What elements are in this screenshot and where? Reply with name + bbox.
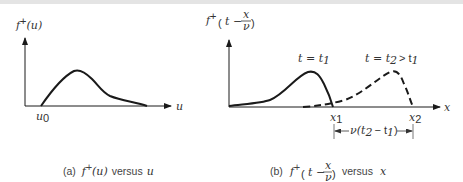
curve-t2-label: t = t2> t1 bbox=[365, 52, 419, 67]
svg-text:versus: versus bbox=[342, 165, 373, 177]
svg-text:(b): (b) bbox=[270, 165, 283, 177]
svg-text:(: ( bbox=[301, 168, 305, 180]
panel-a-x-axis-label: u bbox=[176, 100, 183, 113]
svg-text:t −: t − bbox=[225, 15, 242, 28]
svg-text:x: x bbox=[380, 165, 387, 178]
displacement-label: ν(t2− t1) bbox=[350, 124, 398, 139]
svg-text:ν: ν bbox=[325, 171, 332, 182]
svg-text:f+: f+ bbox=[289, 161, 300, 178]
panel-b-x-axis-label: x bbox=[444, 101, 451, 114]
svg-text:(: ( bbox=[218, 17, 222, 29]
wave-diagram: f+(u) u u0 (a)f+(u)versusu f+ ( t − x ν … bbox=[0, 0, 463, 182]
pulse-t1-solid bbox=[229, 72, 333, 107]
panel-b-caption: (b) f+ ( t − x ν ) versus x bbox=[270, 159, 387, 182]
panel-a: f+(u) u u0 (a)f+(u)versusu bbox=[15, 15, 183, 178]
panel-a-u0-label: u0 bbox=[36, 110, 49, 124]
panel-a-caption: (a)f+(u)versusu bbox=[63, 161, 154, 178]
tick-x1-label: x1 bbox=[330, 111, 342, 125]
svg-text:): ) bbox=[251, 17, 255, 29]
panel-a-curve bbox=[41, 70, 147, 106]
svg-text:t −: t − bbox=[308, 166, 325, 179]
svg-text:): ) bbox=[332, 168, 336, 180]
panel-a-y-label: f+(u) bbox=[15, 15, 42, 32]
svg-text:ν: ν bbox=[243, 20, 250, 33]
curve-t1-label: t = t1 bbox=[298, 52, 330, 67]
tick-x2-label: x2 bbox=[409, 111, 421, 125]
panel-b: f+ ( t − x ν ) x t = t1 t = t2> t1 x1 x2 bbox=[205, 8, 451, 182]
svg-text:f+: f+ bbox=[205, 10, 217, 27]
displacement-dimension: ν(t2− t1) bbox=[334, 124, 413, 139]
panel-b-y-label: f+ ( t − x ν ) bbox=[205, 8, 255, 33]
